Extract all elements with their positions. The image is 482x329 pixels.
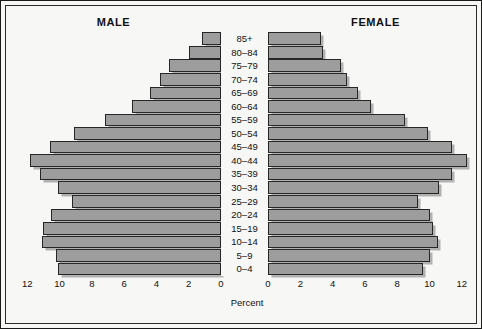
female-bar xyxy=(268,263,423,276)
pyramid-row: 20–24 xyxy=(6,208,482,222)
x-tick-label-right: 12 xyxy=(452,278,472,289)
x-tick-label-left: 12 xyxy=(17,278,37,289)
male-bar xyxy=(51,209,221,222)
male-bar xyxy=(42,236,221,249)
age-group-label: 65–69 xyxy=(221,86,268,100)
age-group-label: 30–34 xyxy=(221,181,268,195)
x-tick-label-right: 6 xyxy=(355,278,375,289)
age-group-label: 0–4 xyxy=(221,262,268,276)
x-axis: 121086420024681012 xyxy=(6,278,482,292)
male-bar xyxy=(43,222,221,235)
age-group-label: 75–79 xyxy=(221,59,268,73)
x-tick-label-right: 10 xyxy=(420,278,440,289)
age-group-label: 35–39 xyxy=(221,167,268,181)
male-bar xyxy=(189,46,221,59)
male-bar xyxy=(132,100,221,113)
x-tick-label-right: 0 xyxy=(258,278,278,289)
age-group-label: 10–14 xyxy=(221,235,268,249)
female-bar xyxy=(268,249,430,262)
pyramid-row: 35–39 xyxy=(6,167,482,181)
x-tick-label-right: 4 xyxy=(323,278,343,289)
female-bar xyxy=(268,236,438,249)
female-bar xyxy=(268,181,439,194)
pyramid-row: 85+ xyxy=(6,32,482,46)
x-axis-title: Percent xyxy=(6,297,482,308)
pyramid-rows: 85+80–8475–7970–7465–6960–6455–5950–5445… xyxy=(6,32,482,276)
age-group-label: 70–74 xyxy=(221,73,268,87)
age-group-label: 5–9 xyxy=(221,249,268,263)
male-bar xyxy=(169,59,221,72)
female-bar xyxy=(268,168,452,181)
pyramid-row: 60–64 xyxy=(6,100,482,114)
male-bar xyxy=(105,114,221,127)
female-bar xyxy=(268,222,433,235)
age-group-label: 45–49 xyxy=(221,140,268,154)
pyramid-row: 45–49 xyxy=(6,140,482,154)
age-group-label: 25–29 xyxy=(221,195,268,209)
female-bar xyxy=(268,141,452,154)
pyramid-row: 0–4 xyxy=(6,262,482,276)
x-tick-label-left: 0 xyxy=(211,278,231,289)
age-group-label: 85+ xyxy=(221,32,268,46)
pyramid-row: 65–69 xyxy=(6,86,482,100)
female-bar xyxy=(268,59,341,72)
age-group-label: 50–54 xyxy=(221,127,268,141)
age-group-label: 60–64 xyxy=(221,100,268,114)
pyramid-row: 5–9 xyxy=(6,249,482,263)
female-series-title: FEMALE xyxy=(268,16,482,28)
female-bar xyxy=(268,127,428,140)
age-group-label: 55–59 xyxy=(221,113,268,127)
pyramid-row: 30–34 xyxy=(6,181,482,195)
female-bar xyxy=(268,154,467,167)
female-bar xyxy=(268,32,321,45)
male-bar xyxy=(74,127,221,140)
male-bar xyxy=(56,249,221,262)
female-bar xyxy=(268,195,418,208)
male-bar xyxy=(160,73,221,86)
male-bar xyxy=(150,87,221,100)
male-bar xyxy=(50,141,221,154)
population-pyramid-figure: MALE FEMALE 85+80–8475–7970–7465–6960–64… xyxy=(0,0,482,329)
pyramid-row: 10–14 xyxy=(6,235,482,249)
pyramid-row: 50–54 xyxy=(6,127,482,141)
pyramid-row: 75–79 xyxy=(6,59,482,73)
male-bar xyxy=(30,154,221,167)
x-tick-label-left: 2 xyxy=(179,278,199,289)
female-bar xyxy=(268,87,358,100)
x-tick-label-left: 10 xyxy=(50,278,70,289)
pyramid-row: 40–44 xyxy=(6,154,482,168)
age-group-label: 40–44 xyxy=(221,154,268,168)
female-bar xyxy=(268,209,430,222)
chart-canvas: MALE FEMALE 85+80–8475–7970–7465–6960–64… xyxy=(5,5,477,324)
x-tick-label-left: 4 xyxy=(146,278,166,289)
female-bar xyxy=(268,73,347,86)
x-tick-label-right: 8 xyxy=(387,278,407,289)
age-group-label: 15–19 xyxy=(221,222,268,236)
age-group-label: 80–84 xyxy=(221,46,268,60)
age-group-label: 20–24 xyxy=(221,208,268,222)
male-series-title: MALE xyxy=(6,16,221,28)
x-tick-label-left: 6 xyxy=(114,278,134,289)
pyramid-row: 55–59 xyxy=(6,113,482,127)
pyramid-row: 25–29 xyxy=(6,195,482,209)
female-bar xyxy=(268,114,405,127)
pyramid-row: 70–74 xyxy=(6,73,482,87)
pyramid-row: 80–84 xyxy=(6,46,482,60)
male-bar xyxy=(202,32,221,45)
x-tick-label-right: 2 xyxy=(290,278,310,289)
female-bar xyxy=(268,100,371,113)
male-bar xyxy=(58,263,221,276)
male-bar xyxy=(72,195,221,208)
male-bar xyxy=(58,181,221,194)
x-tick-label-left: 8 xyxy=(82,278,102,289)
pyramid-row: 15–19 xyxy=(6,222,482,236)
male-bar xyxy=(40,168,221,181)
female-bar xyxy=(268,46,323,59)
